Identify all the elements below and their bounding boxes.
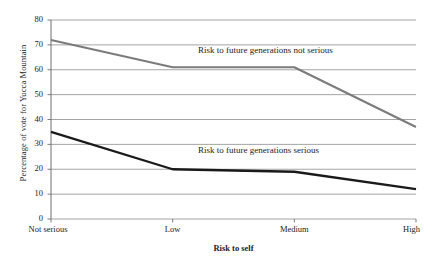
y-tick-label: 50 xyxy=(21,90,43,99)
y-tick-label: 80 xyxy=(21,15,43,24)
y-tick-label: 60 xyxy=(21,65,43,74)
y-tick-label: 70 xyxy=(21,40,43,49)
x-tick-label-medium: Medium xyxy=(280,224,309,234)
x-tick-label-high: High xyxy=(403,224,420,234)
y-tick-marks xyxy=(48,20,52,219)
x-tick-label-not-serious: Not serious xyxy=(29,224,68,234)
chart-figure: Percentage of vote for Yucca Mountain Ri… xyxy=(0,0,445,266)
annotation-series-serious: Risk to future generations serious xyxy=(198,145,319,155)
y-tick-label: 10 xyxy=(21,189,43,198)
y-tick-label: 40 xyxy=(21,115,43,124)
y-tick-label: 20 xyxy=(21,164,43,173)
x-tick-label-low: Low xyxy=(165,224,181,234)
y-tick-label: 30 xyxy=(21,139,43,148)
y-tick-label: 0 xyxy=(21,214,43,223)
annotation-series-not-serious: Risk to future generations not serious xyxy=(198,45,333,55)
x-tick-marks xyxy=(51,219,416,223)
data-series xyxy=(51,40,416,189)
